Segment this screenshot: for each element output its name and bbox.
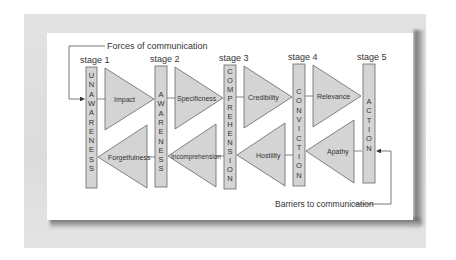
stage-name-letter: C xyxy=(227,67,233,76)
stage-name-letter: N xyxy=(89,136,94,145)
stage-name-letter: C xyxy=(296,87,302,96)
barrier-label-hostility: Hostility xyxy=(256,152,281,160)
stage-name-letter: A xyxy=(89,90,94,99)
stage-1-label: stage 1 xyxy=(80,55,110,65)
stage-name-letter: I xyxy=(298,124,300,133)
stage-name-letter: C xyxy=(366,106,372,115)
stage-name-letter: U xyxy=(89,71,94,80)
force-label-impact: Impact xyxy=(114,96,135,104)
stage-name-letter: R xyxy=(89,118,95,127)
stage-name-letter: A xyxy=(366,97,371,106)
stage-name-letter: C xyxy=(296,134,302,143)
barriers-title: Barriers to communication xyxy=(275,199,374,209)
stage-name-letter: P xyxy=(227,94,232,103)
stage-name-letter: E xyxy=(89,145,94,154)
stage-name-letter: O xyxy=(227,76,233,85)
barrier-label-apathy: Apathy xyxy=(327,148,349,156)
force-label-credibility: Credibility xyxy=(248,94,279,102)
stage-5-label: stage 5 xyxy=(357,52,387,62)
force-label-relevance: Relevance xyxy=(317,93,350,100)
stage-3-label: stage 3 xyxy=(219,53,249,63)
stage-name-letter: O xyxy=(227,165,233,174)
stage-name-letter: W xyxy=(157,99,165,108)
stage-4-label: stage 4 xyxy=(288,52,318,62)
communication-stages-diagram: Forces of communication Barriers to comm… xyxy=(0,0,456,260)
stage-name-letter: M xyxy=(227,85,233,94)
forces-title: Forces of communication xyxy=(107,41,208,51)
stage-name-letter: A xyxy=(89,108,94,117)
stage-name-letter: A xyxy=(158,109,163,118)
stage-name-letter: R xyxy=(227,103,233,112)
stage-name-letter: E xyxy=(227,129,232,138)
stage-name-letter: O xyxy=(366,134,372,143)
stage-name-letter: N xyxy=(366,144,371,153)
stage-name-letter: W xyxy=(88,99,96,108)
stage-name-letter: A xyxy=(158,90,163,99)
stage-name-letter: T xyxy=(367,116,372,125)
barrier-label-incomprehension: Incomprehension xyxy=(171,153,221,161)
stage-name-letter: O xyxy=(296,96,302,105)
stage-name-letter: E xyxy=(158,127,163,136)
stage-name-letter: T xyxy=(297,143,302,152)
stage-name-letter: E xyxy=(158,146,163,155)
barrier-label-forgetfulness: Forgetfulness xyxy=(108,154,151,162)
stage-name-letter: V xyxy=(296,115,301,124)
stage-name-letter: H xyxy=(227,120,232,129)
stage-name-letter: N xyxy=(227,138,232,147)
stage-4-name: CONVICTION xyxy=(296,87,302,180)
stage-name-letter: N xyxy=(227,174,232,183)
stage-name-letter: O xyxy=(296,161,302,170)
stage-name-letter: N xyxy=(158,137,163,146)
stage-name-letter: N xyxy=(296,106,301,115)
stage-name-letter: S xyxy=(89,164,94,173)
stage-3-name: COMPREHENSION xyxy=(227,67,233,183)
stage-name-letter: S xyxy=(158,155,163,164)
stage-name-letter: R xyxy=(158,118,164,127)
stage-name-letter: S xyxy=(227,147,232,156)
stage-name-letter: I xyxy=(229,156,231,165)
stage-name-letter: N xyxy=(296,171,301,180)
stage-name-letter: I xyxy=(298,152,300,161)
stage-name-letter: S xyxy=(89,155,94,164)
stage-name-letter: N xyxy=(89,80,94,89)
stage-name-letter: S xyxy=(158,164,163,173)
stage-name-letter: E xyxy=(89,127,94,136)
stage-name-letter: I xyxy=(368,125,370,134)
stage-2-label: stage 2 xyxy=(150,54,180,64)
force-label-specificness: Specificness xyxy=(177,95,217,103)
stage-name-letter: E xyxy=(227,112,232,121)
